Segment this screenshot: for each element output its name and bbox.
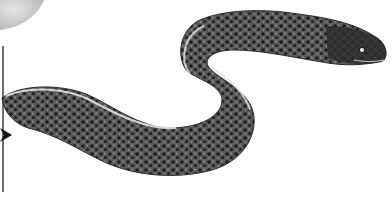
eel-head bbox=[326, 26, 387, 64]
eel-illustration bbox=[0, 0, 392, 207]
eel-eye bbox=[359, 47, 364, 52]
grey-circle bbox=[0, 0, 44, 30]
marker-line bbox=[0, 46, 12, 192]
arrowhead-icon bbox=[0, 128, 12, 142]
